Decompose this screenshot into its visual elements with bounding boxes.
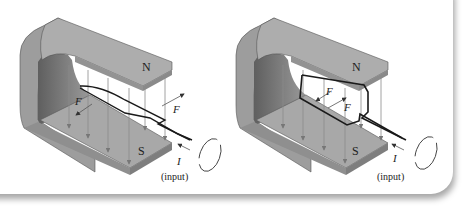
horseshoe-magnet: N S: [236, 18, 388, 175]
input-label: (input): [161, 171, 188, 183]
force-label-lower: F: [343, 101, 351, 113]
force-label-left: F: [74, 95, 82, 107]
force-label-upper: F: [325, 85, 333, 97]
rotation-arrow-icon: [411, 134, 441, 173]
right-figure: N S F F I (input): [236, 18, 441, 183]
current-label: I: [176, 155, 182, 167]
south-pole-label: S: [352, 144, 359, 158]
motor-diagram: N S F F I (input): [0, 0, 462, 209]
force-label-right: F: [172, 103, 180, 115]
input-label: (input): [377, 171, 404, 183]
south-pole-label: S: [138, 144, 145, 158]
north-pole-label: N: [352, 60, 361, 74]
north-pole-label: N: [142, 60, 151, 74]
left-figure: N S F F I (input): [20, 18, 225, 183]
current-label: I: [392, 152, 398, 164]
rotation-arrow-icon: [195, 136, 225, 175]
